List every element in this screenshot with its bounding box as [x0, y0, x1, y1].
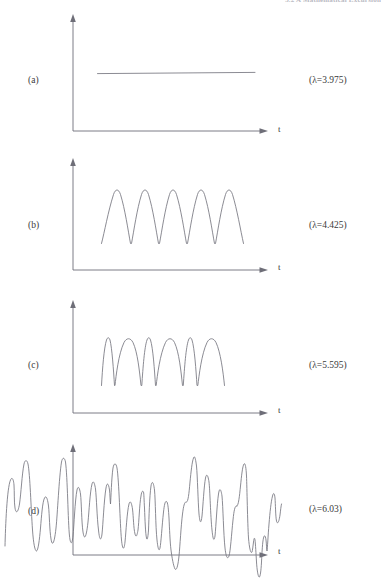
panel-b-trace — [102, 190, 244, 244]
panel-c: (c) (λ=5.595) t — [0, 288, 385, 430]
panel-a-y-axis-arrow-icon — [70, 14, 76, 22]
panel-c-y-axis-arrow-icon — [70, 300, 76, 308]
figure-page: 3.2 A Mathematical Excursion (a) (λ=3.97… — [0, 0, 385, 588]
panel-b: (b) (λ=4.425) t — [0, 146, 385, 288]
panel-d-trace-tail — [237, 464, 282, 577]
panel-a: (a) (λ=3.975) t — [0, 0, 385, 146]
panel-d-y-axis-arrow-icon — [70, 444, 76, 452]
panel-a-x-axis-arrow-icon — [260, 128, 269, 133]
panel-c-x-axis-arrow-icon — [260, 410, 269, 415]
panel-b-plot — [0, 146, 385, 288]
panel-c-plot — [0, 288, 385, 430]
panel-d-x-axis-arrow-icon — [260, 552, 269, 557]
panel-d-plot — [0, 430, 385, 588]
panel-c-trace — [102, 338, 225, 386]
panel-a-plot — [0, 0, 385, 146]
panel-b-x-axis-arrow-icon — [260, 267, 269, 272]
panel-a-trace — [98, 72, 256, 73]
panel-d-trace — [5, 457, 237, 570]
panel-d: (d) (λ=6.03) t — [0, 430, 385, 588]
panel-b-y-axis-arrow-icon — [70, 158, 76, 166]
